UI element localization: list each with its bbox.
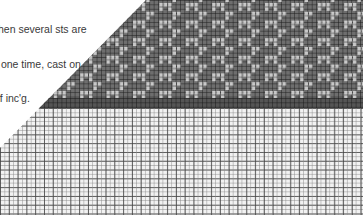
plain-stitch-region	[0, 108, 363, 215]
instruction-text: hen several sts are one time, cast on of…	[0, 1, 87, 116]
instruction-line-3: of inc'g.	[0, 93, 87, 105]
instruction-line-1: hen several sts are	[0, 24, 87, 36]
instruction-line-2: one time, cast on	[0, 59, 87, 71]
